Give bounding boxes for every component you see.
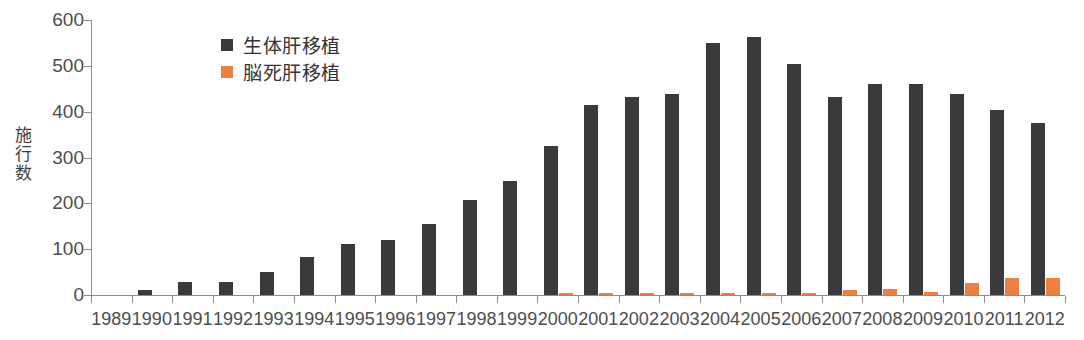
x-axis-tick-mark <box>335 296 336 303</box>
bar-living-donor <box>584 105 598 295</box>
bar-living-donor <box>747 37 761 295</box>
bar-living-donor <box>219 282 233 295</box>
bar-living-donor <box>706 43 720 295</box>
x-axis-tick-label: 1993 <box>254 309 294 330</box>
x-axis-tick-label: 2006 <box>781 309 821 330</box>
bar-living-donor <box>950 94 964 295</box>
bar-brain-death-donor <box>843 290 857 295</box>
legend-item: 脳死肝移植 <box>221 58 341 85</box>
y-axis-tick-label: 0 <box>36 284 84 306</box>
bar-group <box>984 20 1025 295</box>
bar-brain-death-donor <box>721 293 735 295</box>
bar-living-donor <box>341 244 355 295</box>
bar-living-donor <box>625 97 639 295</box>
bar-living-donor <box>1031 123 1045 295</box>
bar-group <box>740 20 781 295</box>
bar-brain-death-donor <box>1005 278 1019 295</box>
bar-group <box>335 20 376 295</box>
x-axis-tick-mark <box>1024 296 1025 303</box>
bar-group <box>781 20 822 295</box>
x-axis-tick-label: 2005 <box>741 309 781 330</box>
bar-group <box>91 20 132 295</box>
x-axis-tick-mark <box>172 296 173 303</box>
y-axis-tick-mark <box>84 20 91 21</box>
x-axis-tick-mark <box>984 296 985 303</box>
bar-living-donor <box>868 84 882 295</box>
x-axis-tick-mark <box>294 296 295 303</box>
x-axis-tick-mark <box>659 296 660 303</box>
x-axis-tick-label: 1990 <box>132 309 172 330</box>
bar-brain-death-donor <box>640 293 654 295</box>
x-axis-tick-label: 1996 <box>375 309 415 330</box>
bar-brain-death-donor <box>802 293 816 295</box>
y-axis-tick-label: 400 <box>36 101 84 123</box>
x-axis-tick-mark <box>456 296 457 303</box>
bar-living-donor <box>463 200 477 295</box>
x-axis-tick-label: 1994 <box>294 309 334 330</box>
x-axis-tick-mark <box>781 296 782 303</box>
y-axis-tick-label: 500 <box>36 55 84 77</box>
liver-transplant-bar-chart: 施 行 数 0100200300400500600 生体肝移植脳死肝移植 198… <box>0 0 1084 340</box>
x-axis-tick-mark <box>943 296 944 303</box>
bar-group <box>862 20 903 295</box>
x-axis-tick-mark <box>416 296 417 303</box>
y-axis-tick-label: 300 <box>36 147 84 169</box>
x-axis-tick-label: 2011 <box>985 309 1024 330</box>
x-axis-tick-label: 1998 <box>457 309 497 330</box>
bar-group <box>943 20 984 295</box>
x-axis-tick-mark <box>903 296 904 303</box>
x-axis-tick-label: 1995 <box>335 309 375 330</box>
bar-brain-death-donor <box>599 293 613 295</box>
x-axis-tick-label: 2003 <box>659 309 699 330</box>
bar-group <box>659 20 700 295</box>
x-axis-tick-mark <box>253 296 254 303</box>
x-axis-tick-label: 2002 <box>619 309 659 330</box>
x-axis-tick-label: 2000 <box>538 309 578 330</box>
x-axis-tick-label: 1997 <box>416 309 456 330</box>
bar-living-donor <box>138 290 152 295</box>
bar-group <box>497 20 538 295</box>
x-axis-tick-mark <box>1065 296 1066 303</box>
bar-group <box>903 20 944 295</box>
legend-item: 生体肝移植 <box>221 31 341 58</box>
bar-living-donor <box>503 181 517 295</box>
bar-living-donor <box>381 240 395 295</box>
x-axis-tick-mark <box>740 296 741 303</box>
x-axis-tick-label: 1992 <box>213 309 253 330</box>
bar-brain-death-donor <box>883 289 897 295</box>
bar-group <box>456 20 497 295</box>
y-axis-title: 施 行 数 <box>12 126 34 183</box>
bar-group <box>578 20 619 295</box>
legend-item-label: 脳死肝移植 <box>243 58 341 85</box>
bar-living-donor <box>828 97 842 295</box>
y-axis-tick-mark <box>84 203 91 204</box>
bar-living-donor <box>544 146 558 295</box>
bar-living-donor <box>178 282 192 295</box>
bar-group <box>822 20 863 295</box>
x-axis-tick-mark <box>213 296 214 303</box>
x-axis-tick-mark <box>619 296 620 303</box>
y-axis-tick-label: 600 <box>36 9 84 31</box>
x-axis-tick-label: 2001 <box>578 309 618 330</box>
legend-swatch-icon <box>221 39 233 51</box>
bar-group <box>700 20 741 295</box>
x-axis-tick-mark <box>91 296 92 303</box>
bar-group <box>537 20 578 295</box>
bar-living-donor <box>260 272 274 295</box>
bar-group <box>375 20 416 295</box>
y-axis-tick-label: 100 <box>36 238 84 260</box>
y-axis-tick-labels: 0100200300400500600 <box>36 0 84 340</box>
bar-group <box>416 20 457 295</box>
bar-living-donor <box>300 257 314 295</box>
x-axis-tick-label: 2012 <box>1025 309 1065 330</box>
bar-living-donor <box>909 84 923 295</box>
x-axis-tick-mark <box>375 296 376 303</box>
x-axis-tick-label: 1989 <box>91 309 131 330</box>
bar-brain-death-donor <box>559 293 573 295</box>
y-axis-tick-mark <box>84 66 91 67</box>
bar-living-donor <box>990 110 1004 295</box>
x-axis-tick-mark <box>862 296 863 303</box>
bar-brain-death-donor <box>680 293 694 295</box>
y-axis-tick-mark <box>84 249 91 250</box>
x-axis-tick-mark <box>700 296 701 303</box>
